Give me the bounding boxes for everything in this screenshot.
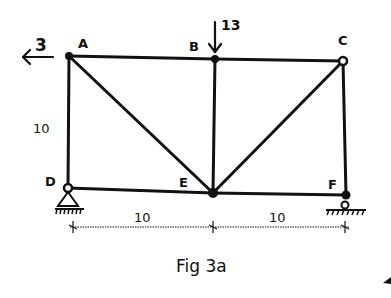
truss-members [68, 56, 346, 195]
member-ae [69, 56, 213, 193]
member-ab [69, 56, 215, 59]
node-label-d: D [45, 174, 56, 189]
member-de [68, 188, 213, 193]
joint-b [211, 55, 219, 63]
node-label-a: A [78, 36, 88, 51]
member-be [213, 59, 215, 193]
load-a: 3 [23, 35, 53, 64]
load-b-value: 13 [221, 17, 240, 33]
edge-mark [383, 277, 391, 284]
node-label-c: C [338, 33, 348, 48]
pin-support-icon [55, 192, 84, 214]
joint-c [339, 57, 347, 65]
figure-caption: Fig 3a [176, 256, 227, 276]
node-label-e: E [179, 175, 188, 190]
member-bc [215, 59, 343, 61]
dimension-height-label: 10 [33, 121, 50, 136]
truss-joints [64, 52, 351, 200]
node-label-b: B [189, 39, 199, 54]
joint-e [208, 188, 218, 198]
member-ce [213, 61, 343, 193]
node-label-f: F [328, 177, 337, 192]
joint-d [64, 184, 72, 192]
member-ad [68, 56, 69, 188]
joint-f [342, 191, 351, 200]
roller-support-icon [326, 202, 366, 216]
load-b: 13 [209, 17, 240, 52]
truss-diagram: A B C D E F 3 13 [0, 0, 391, 298]
dimension-span-1-label: 10 [134, 210, 151, 225]
dimension-line [69, 221, 350, 233]
member-ef [213, 193, 346, 195]
dimension-span-2-label: 10 [269, 210, 286, 225]
load-a-value: 3 [35, 35, 47, 55]
joint-a [65, 52, 73, 60]
member-cf [343, 61, 346, 195]
